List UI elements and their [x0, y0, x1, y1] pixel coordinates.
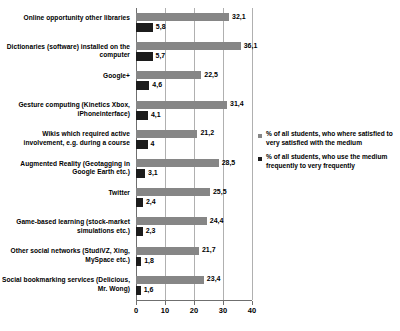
bar-satisfied: [136, 217, 207, 225]
bar-frequent-use: [136, 227, 143, 236]
x-axis-tick-label: 30: [211, 306, 235, 315]
legend-label: % of all students, who where satisfied t…: [266, 130, 398, 147]
bar-value-label: 5,8: [156, 23, 166, 31]
x-axis-tick: [252, 301, 253, 305]
bar-satisfied: [136, 13, 229, 21]
bar-frequent-use: [136, 169, 145, 178]
bar-frequent-use: [136, 23, 153, 32]
category-label: Other social networks (StudiVZ, Xing, My…: [2, 247, 130, 264]
bar-value-label: 28,5: [222, 159, 236, 167]
legend-swatch-icon: [258, 157, 262, 161]
bar-value-label: 21,2: [200, 129, 214, 137]
x-axis-tick: [165, 301, 166, 305]
bar-satisfied: [136, 276, 204, 284]
bar-value-label: 23,4: [207, 275, 221, 283]
category-axis-labels: Online opportunity other librariesDictio…: [0, 0, 133, 300]
gridline: [223, 8, 224, 300]
bar-frequent-use: [136, 81, 149, 90]
bar-value-label: 24,4: [210, 217, 224, 225]
x-axis-tick-label: 20: [182, 306, 206, 315]
bar-value-label: 3,1: [148, 169, 158, 177]
category-label: Game-based learning (stock-market simula…: [2, 218, 130, 235]
x-axis-tick: [194, 301, 195, 305]
bar-satisfied: [136, 247, 199, 255]
bar-satisfied: [136, 130, 197, 138]
bar-value-label: 1,8: [144, 257, 154, 265]
category-label: Wikis which required active involvement,…: [2, 130, 130, 147]
category-label: Online opportunity other libraries: [2, 14, 130, 23]
gridline: [194, 8, 195, 300]
bar-value-label: 25,5: [213, 188, 227, 196]
category-label: Dictionaries (software) installed on the…: [2, 43, 130, 60]
bar-value-label: 5,7: [156, 52, 166, 60]
bar-value-label: 2,3: [146, 227, 156, 235]
category-label: Augmented Reality (Geotagging in Google …: [2, 160, 130, 177]
bar-frequent-use: [136, 257, 141, 266]
bar-satisfied: [136, 71, 201, 79]
bar-satisfied: [136, 159, 219, 167]
bar-frequent-use: [136, 140, 148, 149]
category-label: Google+: [2, 72, 130, 81]
bar-value-label: 4,6: [152, 81, 162, 89]
x-axis-tick: [136, 301, 137, 305]
bar-value-label: 2,4: [146, 198, 156, 206]
bar-satisfied: [136, 188, 210, 196]
category-label: Twitter: [2, 189, 130, 198]
gridline: [252, 8, 253, 300]
legend-swatch-icon: [258, 134, 262, 138]
bar-value-label: 32,1: [232, 13, 246, 21]
legend-item[interactable]: % of all students, who where satisfied t…: [256, 130, 398, 147]
bar-value-label: 4: [151, 140, 155, 148]
category-label: Gesture computing (Kinetics Xbox, iPhone…: [2, 101, 130, 118]
chart-legend: % of all students, who where satisfied t…: [256, 130, 398, 176]
x-axis-tick: [223, 301, 224, 305]
x-axis-tick-label: 0: [124, 306, 148, 315]
bar-frequent-use: [136, 52, 153, 61]
bar-value-label: 22,5: [204, 71, 218, 79]
horizontal-bar-chart: Online opportunity other librariesDictio…: [0, 0, 400, 331]
bar-value-label: 36,1: [244, 42, 258, 50]
x-axis-tick-label: 10: [153, 306, 177, 315]
legend-label: % of all students, who use the medium fr…: [266, 153, 398, 170]
category-label: Social bookmarking services (Delicious, …: [2, 276, 130, 293]
x-axis-tick-label: 40: [240, 306, 264, 315]
plot-area: 32,15,836,15,722,54,631,44,121,2428,53,1…: [136, 8, 252, 300]
bar-frequent-use: [136, 111, 148, 120]
bar-satisfied: [136, 42, 241, 50]
bar-value-label: 4,1: [151, 111, 161, 119]
bar-satisfied: [136, 101, 227, 109]
bar-value-label: 1,6: [144, 286, 154, 294]
x-axis-line: [136, 300, 252, 301]
bar-frequent-use: [136, 198, 143, 207]
bar-value-label: 31,4: [230, 100, 244, 108]
bar-value-label: 21,7: [202, 246, 216, 254]
legend-item[interactable]: % of all students, who use the medium fr…: [256, 153, 398, 170]
bar-frequent-use: [136, 286, 141, 295]
